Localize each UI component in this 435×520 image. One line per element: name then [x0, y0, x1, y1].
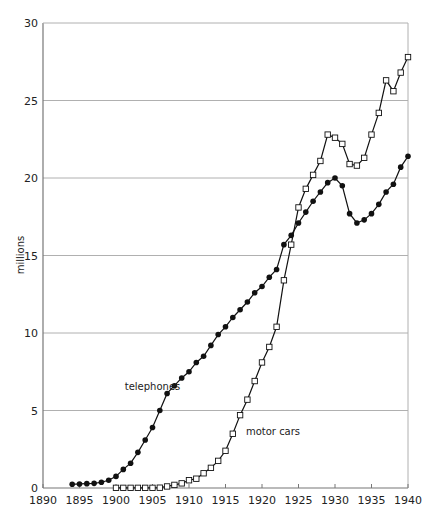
- data-point-square: [383, 78, 388, 83]
- data-point-circle: [332, 175, 338, 181]
- data-point-square: [340, 141, 345, 146]
- data-point-circle: [383, 189, 389, 195]
- data-point-circle: [69, 481, 75, 487]
- data-point-square: [405, 54, 410, 59]
- data-point-square: [172, 482, 177, 487]
- data-point-square: [347, 161, 352, 166]
- x-tick-label: 1920: [248, 494, 276, 507]
- data-point-circle: [274, 267, 280, 273]
- data-point-circle: [208, 343, 214, 349]
- data-point-square: [318, 158, 323, 163]
- data-point-square: [164, 484, 169, 489]
- data-point-circle: [267, 274, 273, 280]
- data-point-circle: [201, 353, 207, 359]
- data-point-square: [296, 205, 301, 210]
- x-tick-label: 1935: [358, 494, 386, 507]
- data-point-square: [150, 485, 155, 490]
- data-point-square: [143, 485, 148, 490]
- data-point-circle: [135, 450, 141, 456]
- x-tick-label: 1930: [321, 494, 349, 507]
- gridlines: [43, 101, 408, 411]
- data-point-circle: [245, 299, 251, 305]
- data-point-square: [113, 485, 118, 490]
- data-point-square: [245, 397, 250, 402]
- x-tick-label: 1905: [139, 494, 167, 507]
- data-point-square: [398, 70, 403, 75]
- data-point-circle: [376, 202, 382, 208]
- data-point-circle: [186, 369, 192, 375]
- data-point-circle: [179, 375, 185, 381]
- data-point-circle: [398, 164, 404, 170]
- series-line: [72, 156, 408, 484]
- data-point-square: [201, 471, 206, 476]
- data-point-square: [362, 155, 367, 160]
- x-tick-label: 1890: [29, 494, 57, 507]
- x-tick-label: 1940: [394, 494, 422, 507]
- data-point-circle: [369, 211, 375, 217]
- y-tick-label: 30: [24, 17, 38, 30]
- data-point-circle: [354, 220, 360, 226]
- data-point-circle: [318, 189, 324, 195]
- data-point-circle: [128, 460, 134, 466]
- data-point-circle: [347, 211, 353, 217]
- y-tick-label: 5: [31, 405, 38, 418]
- data-point-circle: [310, 198, 316, 204]
- series-layer: [69, 54, 410, 490]
- data-point-square: [281, 278, 286, 283]
- data-point-square: [157, 485, 162, 490]
- data-point-circle: [259, 284, 265, 290]
- data-point-circle: [303, 209, 309, 215]
- data-point-square: [259, 360, 264, 365]
- y-tick-label: 20: [24, 172, 38, 185]
- data-point-square: [354, 163, 359, 168]
- data-point-square: [128, 485, 133, 490]
- x-tick-label: 1900: [102, 494, 130, 507]
- data-point-circle: [91, 481, 97, 487]
- data-point-square: [391, 89, 396, 94]
- series-line: [116, 57, 408, 488]
- data-point-square: [179, 481, 184, 486]
- data-point-square: [303, 186, 308, 191]
- data-point-square: [252, 378, 257, 383]
- series-label-motor-cars: motor cars: [246, 426, 300, 437]
- data-point-square: [223, 448, 228, 453]
- data-point-square: [267, 344, 272, 349]
- data-point-circle: [361, 217, 367, 223]
- data-point-circle: [223, 324, 229, 330]
- data-point-square: [310, 172, 315, 177]
- y-tick-label: 15: [24, 250, 38, 263]
- data-point-square: [194, 476, 199, 481]
- data-point-square: [369, 132, 374, 137]
- data-point-square: [325, 132, 330, 137]
- y-tick-label: 25: [24, 95, 38, 108]
- data-point-circle: [296, 220, 302, 226]
- data-point-circle: [84, 481, 90, 487]
- data-point-square: [208, 465, 213, 470]
- data-point-circle: [106, 477, 112, 483]
- data-point-square: [274, 324, 279, 329]
- data-point-circle: [215, 332, 221, 338]
- series-motor-cars: [113, 54, 410, 490]
- data-point-circle: [157, 408, 163, 414]
- y-axis-title: millions: [15, 236, 26, 275]
- data-point-circle: [121, 467, 127, 473]
- x-tick-label: 1910: [175, 494, 203, 507]
- data-point-circle: [237, 307, 243, 313]
- data-point-square: [186, 478, 191, 483]
- data-point-square: [332, 135, 337, 140]
- data-point-circle: [99, 479, 105, 485]
- data-point-circle: [194, 360, 200, 366]
- data-point-circle: [391, 181, 397, 187]
- data-point-circle: [150, 425, 156, 431]
- series-telephones: [69, 154, 410, 488]
- data-point-circle: [325, 180, 331, 186]
- x-tick-label: 1895: [66, 494, 94, 507]
- y-tick-label: 10: [24, 327, 38, 340]
- series-label-telephones: telephones: [125, 381, 181, 392]
- data-point-circle: [281, 242, 287, 248]
- data-point-square: [289, 242, 294, 247]
- data-point-square: [237, 412, 242, 417]
- data-point-square: [135, 485, 140, 490]
- data-point-circle: [252, 290, 258, 296]
- data-point-circle: [77, 481, 83, 487]
